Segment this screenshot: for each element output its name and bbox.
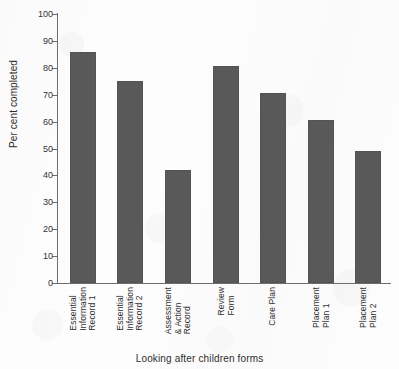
y-tick-label: 100: [38, 10, 53, 19]
x-tick-label-text: ReviewForm: [216, 287, 235, 315]
y-tick-label: 80: [43, 63, 53, 72]
y-tick-label: 10: [43, 252, 53, 261]
bar: [355, 151, 381, 283]
y-tick-label: 20: [43, 225, 53, 234]
x-tick-label-text: Care Plan: [268, 287, 278, 326]
bar: [213, 66, 239, 283]
bar-chart-figure: 0102030405060708090100 EssentialInformat…: [0, 0, 399, 369]
y-axis-title: Per cent completed: [8, 60, 19, 148]
y-tick-label: 90: [43, 36, 53, 45]
y-tick-label: 30: [43, 198, 53, 207]
x-tick-label-text: PlacementPlan 1: [311, 287, 330, 328]
bar: [165, 170, 191, 283]
x-tick-label-text: Assessment& ActionRecord: [164, 287, 193, 334]
bar: [308, 120, 334, 283]
y-tick-label: 0: [48, 279, 53, 288]
x-tick-label-text: EssentialInformationRecord 2: [116, 287, 145, 331]
x-axis-title: Looking after children forms: [0, 353, 399, 364]
y-tick-label: 60: [43, 117, 53, 126]
plot-area: 0102030405060708090100: [57, 14, 390, 283]
y-tick-label: 40: [43, 171, 53, 180]
y-tick-label: 70: [43, 90, 53, 99]
bar: [117, 81, 143, 283]
x-tick-label-text: EssentialInformationRecord 1: [69, 287, 98, 331]
y-tick-label: 50: [43, 144, 53, 153]
bar: [260, 93, 286, 283]
x-tick-label-text: PlacementPlan 2: [359, 287, 378, 328]
x-axis-line: [57, 283, 391, 284]
bar: [70, 52, 96, 283]
